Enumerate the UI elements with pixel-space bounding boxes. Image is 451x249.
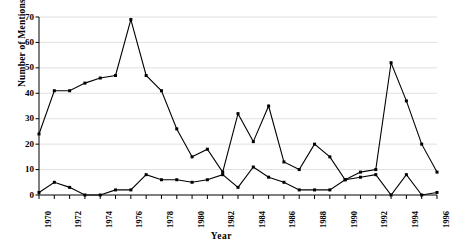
series-line-lower-series [39,167,437,195]
data-point-marker [374,168,377,171]
data-point-marker [191,181,194,184]
series-line-upper-series [39,20,437,180]
data-point-marker [298,188,301,191]
data-point-marker [206,178,209,181]
data-point-marker [344,178,347,181]
data-point-marker [160,89,163,92]
data-point-marker [129,18,132,21]
data-point-marker [359,176,362,179]
data-point-marker [282,160,285,163]
data-point-marker [38,191,41,194]
data-point-marker [175,178,178,181]
data-point-marker [267,105,270,108]
data-point-marker [145,74,148,77]
data-point-marker [160,178,163,181]
data-point-marker [405,99,408,102]
data-point-marker [390,194,393,197]
data-point-marker [436,191,439,194]
data-point-marker [53,89,56,92]
data-point-marker [99,194,102,197]
data-point-marker [237,186,240,189]
data-point-marker [221,173,224,176]
data-point-marker [313,188,316,191]
data-point-marker [298,168,301,171]
data-point-marker [267,176,270,179]
data-point-marker [114,74,117,77]
data-point-marker [420,143,423,146]
data-point-marker [83,194,86,197]
data-point-marker [328,188,331,191]
data-point-marker [390,61,393,64]
data-point-marker [436,171,439,174]
data-point-marker [191,155,194,158]
data-point-marker [99,77,102,80]
data-point-marker [328,155,331,158]
data-point-marker [83,82,86,85]
data-point-marker [374,173,377,176]
data-point-marker [405,173,408,176]
data-point-marker [68,186,71,189]
data-point-marker [252,140,255,143]
data-point-marker [68,89,71,92]
data-point-marker [206,148,209,151]
data-point-marker [114,188,117,191]
data-point-marker [237,112,240,115]
data-point-marker [129,188,132,191]
data-point-marker [252,166,255,169]
data-point-marker [359,171,362,174]
data-point-marker [38,132,41,135]
data-point-marker [282,181,285,184]
data-point-marker [175,127,178,130]
data-point-marker [313,143,316,146]
data-point-marker [420,194,423,197]
data-point-marker [145,173,148,176]
data-point-marker [53,181,56,184]
